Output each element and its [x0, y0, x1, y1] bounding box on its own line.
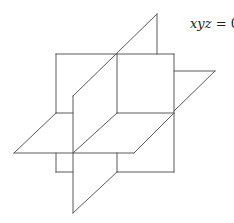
xy-plane	[14, 54, 174, 153]
xy-plane-flap	[174, 71, 215, 111]
coordinate-planes-diagram	[0, 0, 234, 223]
equation-variables: xyz	[190, 16, 212, 31]
equation-rhs: = 0	[212, 16, 234, 31]
equation-label: xyz = 0	[190, 16, 234, 31]
